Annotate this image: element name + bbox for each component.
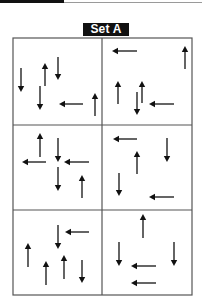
grid-lines [13,38,192,295]
arrow-down-icon [37,86,43,110]
cell-3 [22,133,89,198]
arrow-down-icon [171,242,177,266]
cell-2 [112,46,188,115]
arrow-down-icon [79,260,85,283]
arrow-left-icon [59,101,83,107]
arrow-down-icon [55,167,61,191]
arrow-up-icon [182,46,188,69]
arrow-left-icon [131,263,156,269]
arrow-up-icon [140,214,146,238]
arrow-up-icon [42,63,48,86]
arrow-up-icon [37,133,43,157]
arrow-up-icon [139,81,145,103]
arrow-down-icon [164,138,170,162]
arrow-up-icon [79,175,85,198]
cell-5 [25,225,89,285]
arrow-up-icon [115,81,121,104]
arrow-down-icon [116,173,122,196]
arrow-left-icon [112,48,137,54]
cell-6 [116,214,177,286]
arrow-down-icon [116,242,122,266]
arrow-up-icon [43,261,49,285]
arrow-down-icon [55,225,61,249]
grid-cells [18,46,188,286]
arrow-up-icon [25,243,31,267]
arrow-left-icon [65,229,89,235]
arrow-down-icon [55,57,61,80]
arrow-up-icon [92,93,98,116]
arrow-down-icon [18,68,24,92]
arrow-left-icon [22,159,46,165]
arrow-down-icon [55,138,61,162]
arrow-left-icon [149,194,174,200]
arrow-up-icon [134,151,140,174]
arrow-down-icon [134,92,140,115]
cell-1 [18,57,98,116]
arrow-left-icon [131,280,156,286]
cell-4 [113,136,174,200]
arrow-left-icon [64,159,89,165]
arrow-up-icon [61,255,67,279]
arrow-left-icon [113,136,137,142]
arrow-left-icon [149,101,174,107]
arrow-grid-diagram [0,0,202,308]
